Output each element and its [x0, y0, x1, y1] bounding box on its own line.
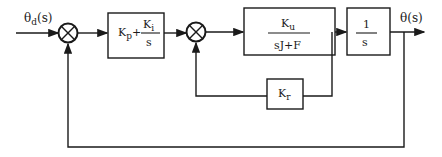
output-label: θ(s)	[400, 12, 423, 24]
block-diagram-canvas	[0, 0, 442, 157]
inner-feedback-line-right	[303, 32, 332, 96]
integrator-denominator: s	[362, 37, 368, 48]
plant-numerator: Ku	[281, 18, 295, 32]
velocity-feedback-label: Kr	[278, 88, 291, 102]
pi-fraction-numerator: Ki	[143, 19, 154, 33]
pi-prefix: Kp+	[118, 27, 141, 41]
pi-fraction-denominator: s	[146, 37, 152, 48]
integrator-numerator: 1	[363, 19, 370, 30]
integrator-block	[347, 8, 390, 55]
input-label: θd(s)	[24, 12, 53, 27]
plant-denominator: sJ+F	[274, 40, 301, 51]
summing-junction-1	[59, 24, 78, 43]
outer-feedback-line	[68, 32, 404, 147]
inner-feedback-line-left	[196, 43, 267, 96]
summing-junction-2	[187, 23, 206, 42]
